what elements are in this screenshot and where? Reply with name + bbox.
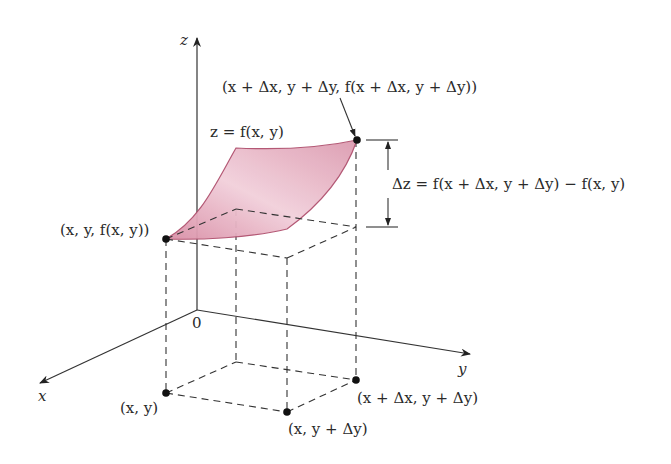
x-axis [40,310,197,383]
pointer-arrow [340,98,355,136]
delta-z-label: Δz = f(x + Δx, y + Δy) − f(x, y) [392,175,625,193]
y-axis [197,310,470,354]
label-base-xy: (x, y) [120,399,158,417]
label-top-far: (x + Δx, y + Δy, f(x + Δx, y + Δy)) [222,78,477,96]
diagram-canvas: z y x 0 (x + Δx, y + Δy, f(x + Δx, y + Δ… [0,0,671,464]
surface-label: z = f(x, y) [210,123,284,141]
y-axis-label: y [457,360,467,378]
x-axis-label: x [38,387,47,405]
point-top-near [162,235,170,243]
surface-patch [166,140,357,239]
z-axis-label: z [179,31,188,49]
label-base-x-ydy: (x, y + Δy) [288,420,368,438]
point-base-xdx-ydy [352,376,360,384]
point-base-xy [162,389,170,397]
label-top-near: (x, y, f(x, y)) [60,221,149,239]
point-top-far [353,136,361,144]
origin-label: 0 [192,314,202,332]
label-base-xdx-ydy: (x + Δx, y + Δy) [357,389,478,407]
point-base-x-ydy [283,408,291,416]
base-rectangle [166,362,356,412]
